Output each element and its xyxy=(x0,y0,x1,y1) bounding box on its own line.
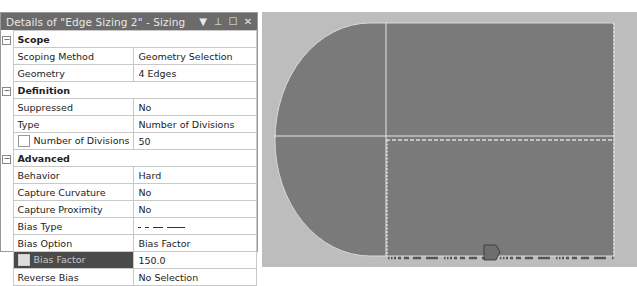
edge-direction-marker-icon xyxy=(484,245,500,260)
parameter-checkbox[interactable] xyxy=(18,135,30,147)
property-value[interactable]: No xyxy=(134,201,257,218)
property-value[interactable]: Hard xyxy=(134,167,257,184)
property-row[interactable]: Capture Curvature No xyxy=(1,184,257,201)
property-label: Behavior xyxy=(13,167,134,184)
bias-type-value[interactable] xyxy=(134,218,257,235)
property-label: Capture Curvature xyxy=(13,184,134,201)
collapse-icon[interactable]: − xyxy=(2,155,11,164)
property-value[interactable]: No xyxy=(134,99,257,116)
geometry-view xyxy=(262,12,637,267)
property-value[interactable]: No Selection xyxy=(134,269,257,286)
bias-dash-icon xyxy=(138,227,141,228)
details-panel-titlebar: Details of "Edge Sizing 2" - Sizing ▼ ⊥ … xyxy=(1,13,257,30)
properties-table: − Scope Scoping Method Geometry Selectio… xyxy=(1,30,257,286)
group-label: Scope xyxy=(13,31,257,48)
property-label: Reverse Bias xyxy=(13,269,134,286)
property-label: Geometry xyxy=(13,65,134,82)
property-label: Type xyxy=(13,116,134,133)
property-row[interactable]: Behavior Hard xyxy=(1,167,257,184)
bias-dash-icon xyxy=(153,227,163,228)
pin-icon[interactable]: ⊥ xyxy=(213,17,223,27)
graphics-viewport[interactable] xyxy=(262,12,637,267)
property-label: Scoping Method xyxy=(13,48,134,65)
close-icon[interactable]: ✕ xyxy=(243,17,253,27)
property-label: Capture Proximity xyxy=(13,201,134,218)
panel-title: Details of "Edge Sizing 2" - Sizing xyxy=(6,16,198,28)
property-row[interactable]: Bias Option Bias Factor xyxy=(1,235,257,252)
group-scope[interactable]: − Scope xyxy=(1,31,257,48)
group-label: Advanced xyxy=(13,150,257,167)
property-row-selected[interactable]: Bias Factor 150.0 xyxy=(1,252,257,269)
property-value[interactable]: 150.0 xyxy=(134,252,257,269)
property-value[interactable]: Bias Factor xyxy=(134,235,257,252)
property-row[interactable]: Bias Type xyxy=(1,218,257,235)
group-advanced[interactable]: − Advanced xyxy=(1,150,257,167)
property-row[interactable]: Reverse Bias No Selection xyxy=(1,269,257,286)
property-label-cell: Bias Factor xyxy=(13,252,134,269)
collapse-icon[interactable]: − xyxy=(2,87,11,96)
bias-dash-icon xyxy=(145,227,149,228)
property-value[interactable]: 50 xyxy=(134,133,257,150)
maximize-icon[interactable]: ☐ xyxy=(228,17,238,27)
property-label: Bias Type xyxy=(13,218,134,235)
property-value[interactable]: Number of Divisions xyxy=(134,116,257,133)
parameter-checkbox[interactable] xyxy=(18,254,30,266)
details-panel: Details of "Edge Sizing 2" - Sizing ▼ ⊥ … xyxy=(0,12,258,252)
collapse-icon[interactable]: − xyxy=(2,36,11,45)
group-definition[interactable]: − Definition xyxy=(1,82,257,99)
property-row[interactable]: Capture Proximity No xyxy=(1,201,257,218)
property-row[interactable]: Scoping Method Geometry Selection xyxy=(1,48,257,65)
property-value[interactable]: 4 Edges xyxy=(134,65,257,82)
property-value[interactable]: Geometry Selection xyxy=(134,48,257,65)
property-row[interactable]: Geometry 4 Edges xyxy=(1,65,257,82)
property-label: Bias Option xyxy=(13,235,134,252)
property-row[interactable]: Suppressed No xyxy=(1,99,257,116)
property-label-cell: Number of Divisions xyxy=(13,133,134,150)
group-label: Definition xyxy=(13,82,257,99)
property-value[interactable]: No xyxy=(134,184,257,201)
property-row[interactable]: Type Number of Divisions xyxy=(1,116,257,133)
property-label: Suppressed xyxy=(13,99,134,116)
property-label: Number of Divisions xyxy=(34,135,130,146)
bias-dash-icon xyxy=(167,227,185,228)
property-label: Bias Factor xyxy=(34,254,86,265)
property-row[interactable]: Number of Divisions 50 xyxy=(1,133,257,150)
dropdown-arrow-icon[interactable]: ▼ xyxy=(198,17,208,27)
